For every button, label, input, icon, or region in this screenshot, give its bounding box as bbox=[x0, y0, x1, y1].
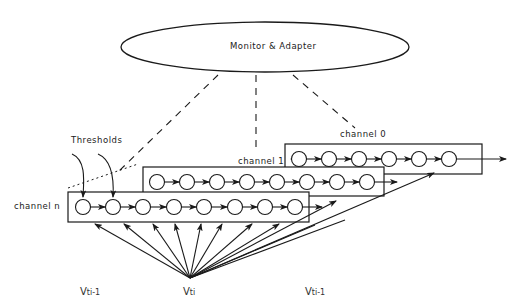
thresholds-label: Thresholds bbox=[71, 135, 122, 145]
channel-1-label: channel 1 bbox=[238, 156, 284, 166]
input-left-label: Vti-1 bbox=[80, 286, 100, 297]
channel-0-label: channel 0 bbox=[340, 129, 386, 139]
channel-n-row bbox=[68, 192, 322, 222]
threshold-arrows bbox=[72, 154, 113, 197]
input-center-label: Vti bbox=[183, 286, 195, 297]
channel-n-label: channel n bbox=[14, 201, 60, 211]
threshold-link bbox=[68, 164, 138, 188]
monitor-adapter-label: Monitor & Adapter bbox=[230, 41, 317, 51]
input-right-label: Vti-1 bbox=[305, 286, 325, 297]
